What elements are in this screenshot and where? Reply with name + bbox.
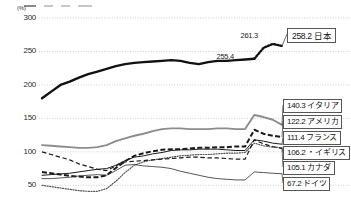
series-line-アメリカ bbox=[42, 130, 282, 178]
callout-日本: 258.2 日本 bbox=[287, 28, 336, 43]
annotation-261.3: 261.3 bbox=[241, 31, 258, 40]
line-chart: (%) 30025020015010050 258.2 日本140.3 イタリア… bbox=[0, 0, 351, 198]
y-tick-label: 250 bbox=[10, 46, 36, 55]
callout-ドイツ: 67.2 ドイツ bbox=[283, 177, 330, 191]
y-tick-label: 50 bbox=[10, 180, 36, 189]
y-tick-label: 300 bbox=[10, 13, 36, 22]
series-line-カナダ bbox=[42, 140, 282, 171]
callout-イギリス: 106.2 ・イギリス bbox=[283, 146, 350, 160]
callout-アメリカ: 122.2 アメリカ bbox=[283, 115, 342, 129]
y-tick-label: 100 bbox=[10, 147, 36, 156]
y-tick-label: 200 bbox=[10, 80, 36, 89]
y-tick-label: 150 bbox=[10, 113, 36, 122]
callout-イタリア: 140.3 イタリア bbox=[283, 99, 342, 113]
annotation-255.4: 255.4 bbox=[217, 52, 234, 61]
callout-フランス: 111.4 フランス bbox=[283, 131, 341, 145]
callout-カナダ: 105.1 カナダ bbox=[283, 161, 335, 175]
series-line-日本 bbox=[42, 59, 254, 98]
series-line-イタリア bbox=[42, 115, 282, 148]
